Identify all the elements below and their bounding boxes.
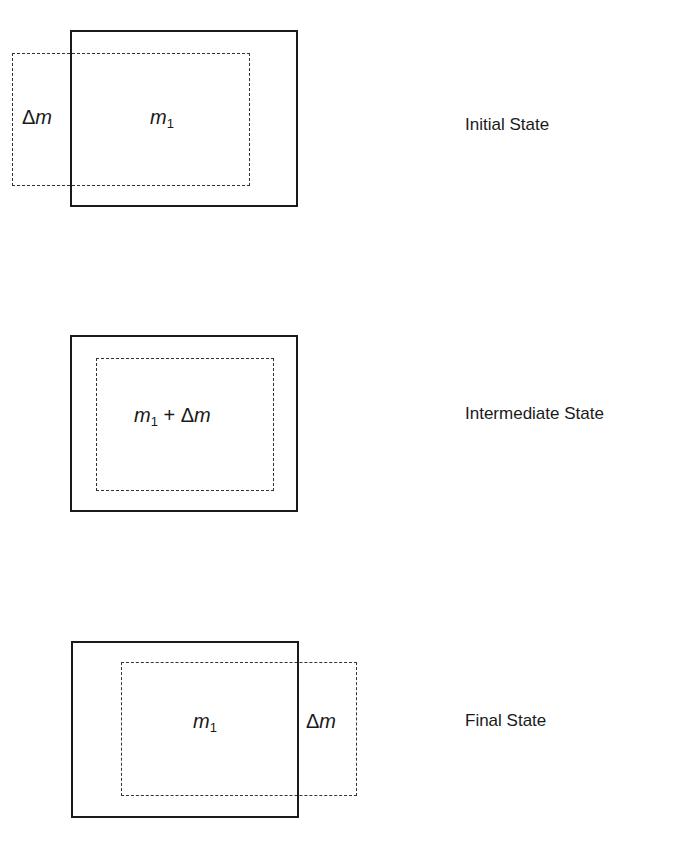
delta-m-label: Δm <box>22 106 52 129</box>
initial-state-label: Initial State <box>465 115 549 135</box>
final-state-label: Final State <box>465 711 546 731</box>
m1-label: m1 <box>193 710 217 735</box>
intermediate-state-label: Intermediate State <box>465 404 604 424</box>
m1-label: m1 <box>150 106 174 131</box>
m1-plus-delta-m-label: m1 + Δm <box>134 404 211 429</box>
delta-m-label: Δm <box>306 710 336 733</box>
